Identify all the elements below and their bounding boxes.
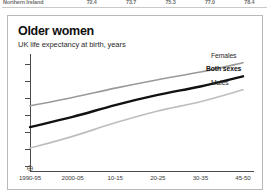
clipped-table-strip: Northern Ireland 72.4 73.7 75.3 77.0 78.… <box>0 0 269 11</box>
series-label-both-sexes: Both sexes <box>206 65 241 72</box>
table-cell-value: 72.4 <box>72 0 111 5</box>
chart-panel: Older women UK life expectancy at birth,… <box>7 15 263 190</box>
table-cell-value: 75.3 <box>151 0 190 5</box>
series-label-females: Females <box>211 52 236 59</box>
series-label-males: Males <box>211 79 229 86</box>
chart-panel-inner: Older women UK life expectancy at birth,… <box>8 16 262 189</box>
table-bottom-rule <box>2 7 267 8</box>
chart-lines <box>8 16 263 190</box>
table-cell-value: 73.7 <box>111 0 150 5</box>
table-cell-value: 78.4 <box>230 0 269 5</box>
table-row: Northern Ireland 72.4 73.7 75.3 77.0 78.… <box>0 0 269 7</box>
table-cell-value: 77.0 <box>190 0 229 5</box>
table-row-label: Northern Ireland <box>0 0 72 5</box>
